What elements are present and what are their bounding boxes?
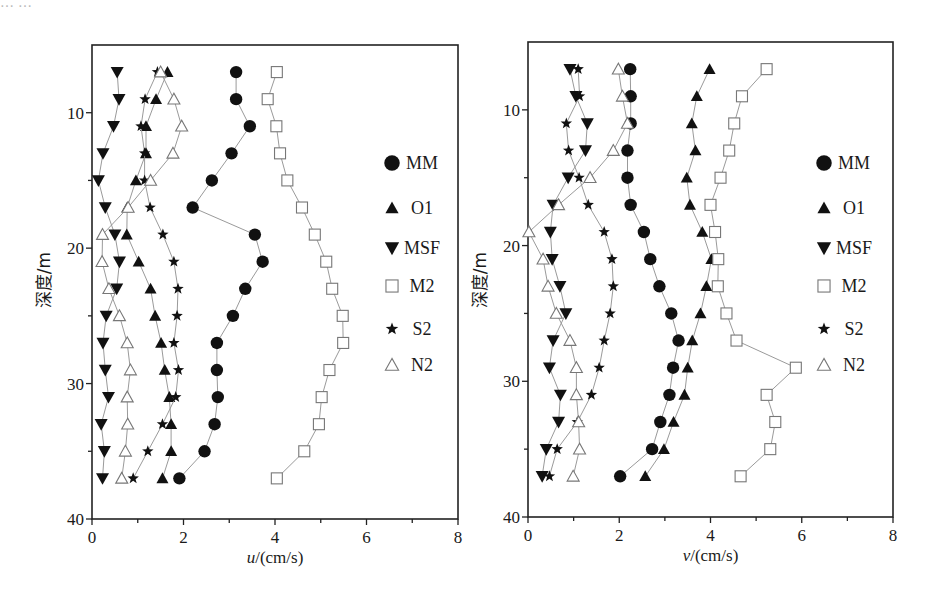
data-point-m2 bbox=[721, 308, 732, 319]
data-point-msf bbox=[108, 229, 121, 241]
data-point-m2 bbox=[327, 283, 338, 294]
series-o1 bbox=[639, 63, 717, 481]
data-point-m2 bbox=[271, 121, 282, 132]
data-point-mm bbox=[244, 120, 256, 132]
series-line bbox=[620, 69, 678, 476]
data-point-m2 bbox=[765, 444, 776, 455]
data-point-msf bbox=[540, 444, 553, 456]
y-tick-label: 10 bbox=[67, 104, 84, 123]
series-line bbox=[268, 72, 344, 478]
x-axis-title: u/(cm/s) bbox=[247, 548, 304, 567]
x-tick-label: 2 bbox=[179, 528, 188, 547]
data-point-s2 bbox=[563, 145, 574, 156]
legend-marker-msf bbox=[817, 242, 831, 255]
data-point-m2 bbox=[271, 473, 282, 484]
data-point-mm bbox=[212, 391, 224, 403]
legend-item-mm: MM bbox=[816, 153, 870, 173]
data-point-n2 bbox=[176, 120, 188, 131]
data-point-n2 bbox=[121, 391, 133, 402]
data-point-o1 bbox=[658, 443, 670, 454]
data-point-msf bbox=[112, 94, 125, 106]
series-line bbox=[127, 72, 171, 478]
data-point-mm bbox=[624, 63, 636, 75]
data-point-mm bbox=[621, 172, 633, 184]
x-tick-label: 4 bbox=[271, 528, 280, 547]
data-point-msf bbox=[100, 311, 113, 323]
data-point-m2 bbox=[338, 337, 349, 348]
data-point-s2 bbox=[604, 307, 615, 318]
series-line bbox=[133, 72, 178, 478]
data-point-msf bbox=[107, 121, 120, 133]
legend-marker-o1 bbox=[385, 201, 398, 213]
u-velocity-panel: 0246810203040u/(cm/s)深度/mMMO1MSFM2S2N2 bbox=[34, 45, 462, 567]
data-point-o1 bbox=[686, 335, 698, 346]
data-point-mm bbox=[653, 280, 665, 292]
data-point-m2 bbox=[713, 254, 724, 265]
data-point-n2 bbox=[119, 445, 131, 456]
v-velocity-panel: 0246810203040v/(cm/s)深度/mMMO1MSFM2S2N2 bbox=[470, 42, 897, 565]
legend-marker-m2 bbox=[386, 280, 398, 292]
data-point-o1 bbox=[145, 283, 157, 294]
data-point-mm bbox=[230, 93, 242, 105]
legend-label: O1 bbox=[843, 198, 865, 218]
data-point-mm bbox=[621, 144, 633, 156]
data-point-mm bbox=[249, 228, 261, 240]
data-point-msf bbox=[543, 363, 556, 375]
data-point-mm bbox=[256, 255, 268, 267]
data-point-mm bbox=[225, 147, 237, 159]
data-point-m2 bbox=[337, 310, 348, 321]
legend-item-m2: M2 bbox=[386, 276, 435, 296]
data-point-mm bbox=[198, 445, 210, 457]
y-axis-title: 深度/m bbox=[34, 252, 54, 308]
data-point-mm bbox=[667, 362, 679, 374]
data-point-n2 bbox=[567, 470, 579, 481]
data-point-m2 bbox=[710, 227, 721, 238]
data-point-m2 bbox=[790, 362, 801, 373]
data-point-m2 bbox=[275, 148, 286, 159]
legend-marker-n2 bbox=[385, 358, 398, 370]
data-point-msf bbox=[96, 338, 109, 350]
data-point-m2 bbox=[321, 256, 332, 267]
data-point-o1 bbox=[689, 145, 701, 156]
data-point-msf bbox=[552, 417, 565, 429]
data-point-m2 bbox=[736, 91, 747, 102]
legend-marker-mm bbox=[384, 155, 400, 171]
legend-item-mm: MM bbox=[384, 153, 438, 173]
legend-item-s2: S2 bbox=[818, 319, 864, 339]
data-point-m2 bbox=[299, 446, 310, 457]
data-point-o1 bbox=[694, 307, 706, 318]
legend-marker-n2 bbox=[817, 358, 830, 370]
data-point-mm bbox=[644, 253, 656, 265]
data-point-o1 bbox=[133, 256, 145, 267]
data-point-n2 bbox=[167, 147, 179, 158]
series-mm bbox=[173, 66, 269, 485]
data-point-o1 bbox=[150, 93, 162, 104]
data-point-mm bbox=[230, 66, 242, 78]
y-tick-label: 20 bbox=[67, 239, 84, 258]
data-point-n2 bbox=[542, 280, 554, 291]
legend-marker-msf bbox=[385, 242, 399, 255]
x-tick-label: 8 bbox=[889, 526, 898, 545]
caption-fragment: …… bbox=[0, 0, 36, 10]
legend-item-n2: N2 bbox=[817, 355, 865, 375]
data-point-s2 bbox=[598, 335, 609, 346]
data-point-msf bbox=[99, 202, 112, 214]
data-point-mm bbox=[646, 443, 658, 455]
data-point-o1 bbox=[668, 416, 680, 427]
data-point-msf bbox=[562, 173, 575, 185]
legend-label: MSF bbox=[404, 238, 440, 258]
data-point-mm bbox=[206, 174, 218, 186]
data-point-n2 bbox=[121, 337, 133, 348]
data-point-m2 bbox=[724, 145, 735, 156]
data-point-mm bbox=[654, 416, 666, 428]
data-point-s2 bbox=[142, 445, 153, 456]
data-point-o1 bbox=[696, 226, 708, 237]
data-point-msf bbox=[111, 67, 124, 79]
data-point-msf bbox=[553, 281, 566, 293]
data-point-o1 bbox=[704, 63, 716, 74]
legend-marker-o1 bbox=[817, 201, 830, 213]
legend-label: N2 bbox=[843, 355, 865, 375]
data-point-o1 bbox=[678, 389, 690, 400]
data-point-mm bbox=[211, 337, 223, 349]
data-point-s2 bbox=[157, 229, 168, 240]
